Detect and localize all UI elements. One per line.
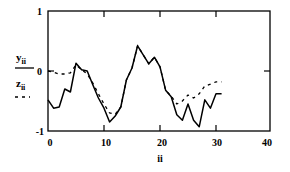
x-tick-20: 20: [157, 137, 167, 148]
legend-z-label: zii: [16, 77, 26, 92]
x-tick-40: 40: [262, 137, 272, 148]
axis-ticks: [48, 11, 270, 131]
line-chart: 1 0 -1 0 10 20 30 40 ii yii zii: [0, 0, 290, 172]
series-y-solid: [48, 46, 222, 127]
x-tick-10: 10: [101, 137, 111, 148]
y-tick-1: 1: [37, 6, 42, 17]
legend: yii zii: [15, 51, 34, 97]
plot-frame: [48, 11, 270, 131]
x-tick-0: 0: [48, 137, 53, 148]
legend-y-label: yii: [16, 51, 27, 66]
y-tick-neg1: -1: [36, 126, 44, 137]
x-axis-label: ii: [157, 153, 163, 164]
y-tick-0: 0: [37, 66, 42, 77]
x-tick-30: 30: [212, 137, 222, 148]
